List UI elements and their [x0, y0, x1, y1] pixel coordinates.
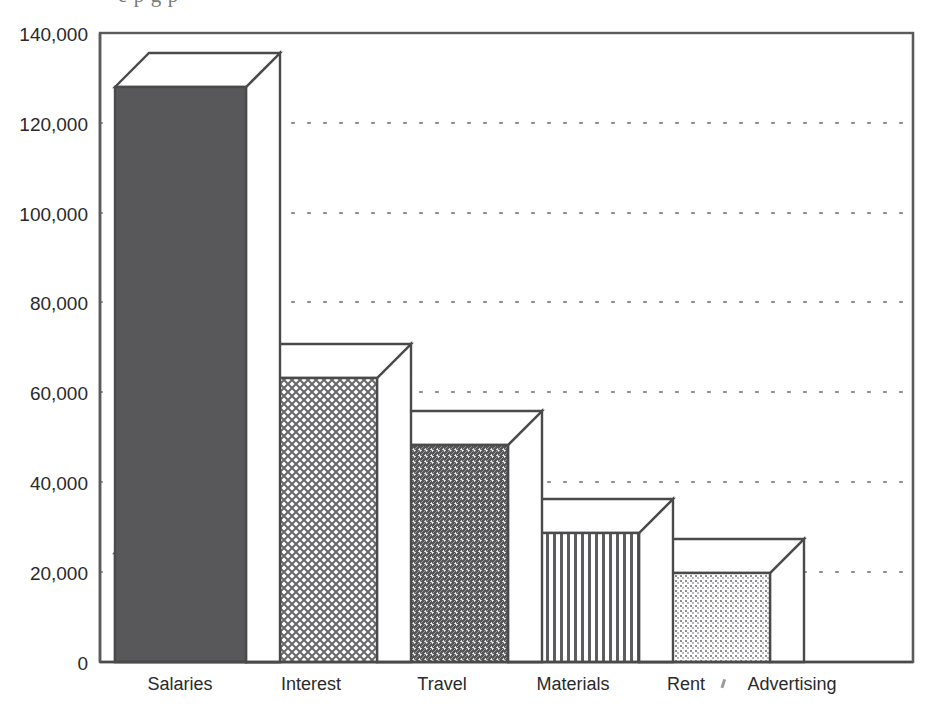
ytick-label-80000: 80,000: [30, 293, 88, 314]
xtick-label-travel: Travel: [417, 674, 466, 694]
bar-materials-side: [508, 411, 542, 662]
xtick-label-advertising: Advertising: [747, 674, 836, 694]
chart-canvas: 140,000 120,000 100,000 80,000 60,000 40…: [0, 0, 929, 717]
ytick-label-40000: 40,000: [30, 473, 88, 494]
x-axis-labels: Salaries Interest Travel Materials Rent …: [147, 674, 836, 694]
ytick-label-120000: 120,000: [19, 114, 88, 135]
bar-travel-side: [377, 344, 411, 662]
ytick-label-20000: 20,000: [30, 563, 88, 584]
ytick-label-0: 0: [77, 653, 88, 674]
ytick-label-100000: 100,000: [19, 204, 88, 225]
xtick-label-rent: Rent: [667, 674, 705, 694]
xtick-label-materials: Materials: [536, 674, 609, 694]
bar-salaries[interactable]: [115, 53, 280, 662]
y-axis-labels: 140,000 120,000 100,000 80,000 60,000 40…: [19, 24, 88, 674]
bar-salaries-front: [115, 87, 246, 662]
ytick-label-140000: 140,000: [19, 24, 88, 45]
scan-speck: [721, 679, 727, 688]
bar-salaries-side: [246, 53, 280, 662]
xtick-label-interest: Interest: [281, 674, 341, 694]
bar-chart-figure: e p g p: [0, 0, 929, 717]
xtick-label-salaries: Salaries: [147, 674, 212, 694]
ytick-label-60000: 60,000: [30, 383, 88, 404]
